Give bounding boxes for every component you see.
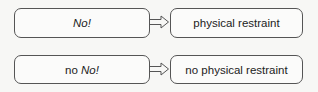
left-box-italic-text: No! [73,17,91,29]
right-box-label: no physical restraint [185,64,287,76]
hollow-arrow-icon [149,62,170,76]
left-box-italic-text: No! [81,64,99,76]
left-box-prefix: no [65,64,81,76]
hollow-arrow-icon [149,15,170,29]
left-box-row-2: no No! [14,55,150,84]
left-box-row-1: No! [14,8,150,38]
right-box-row-1: physical restraint [170,8,303,38]
right-box-label: physical restraint [193,17,279,29]
right-box-row-2: no physical restraint [170,55,303,84]
